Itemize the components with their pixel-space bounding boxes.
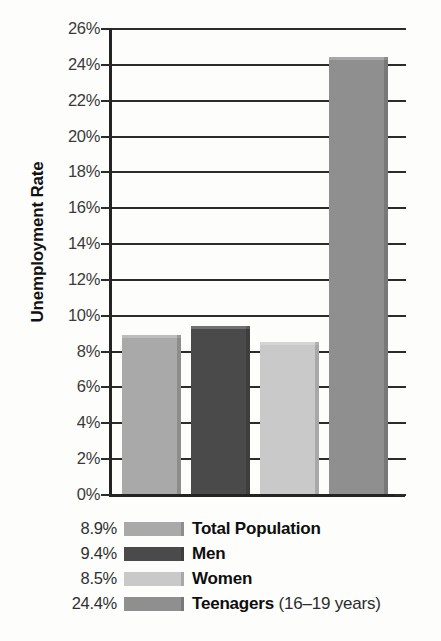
legend-swatch-face <box>124 597 184 611</box>
bar-face <box>191 326 250 494</box>
bar-shadow-edge <box>246 326 250 494</box>
bar-shadow-edge <box>177 335 181 495</box>
legend-swatch-edge <box>181 522 184 536</box>
y-axis-tick <box>101 243 110 245</box>
y-axis-tick <box>101 64 110 66</box>
y-axis-tick-right <box>395 136 406 138</box>
y-axis-tick <box>101 207 110 209</box>
bar-face <box>329 57 388 494</box>
y-axis-tick-right <box>395 494 406 496</box>
legend-label: Men <box>184 544 225 564</box>
legend-swatch-face <box>124 572 184 586</box>
bar-series <box>109 28 401 494</box>
y-axis-tick <box>101 386 110 388</box>
y-axis-tick-right <box>395 100 406 102</box>
y-axis-tick-label: 8% <box>44 341 100 360</box>
y-axis-tick-right <box>395 315 406 317</box>
y-axis-tick-right <box>395 458 406 460</box>
legend-item: 24.4%Teenagers (16–19 years) <box>0 591 441 616</box>
y-axis-tick-label: 22% <box>44 90 100 109</box>
y-axis-tick-label: 18% <box>44 162 100 181</box>
bar <box>260 342 319 494</box>
y-axis-tick-right <box>395 28 406 30</box>
legend-label: Women <box>184 569 252 589</box>
legend-label: Total Population <box>184 519 321 539</box>
y-axis-tick-right <box>395 351 406 353</box>
bar <box>329 57 388 494</box>
legend-value: 9.4% <box>0 544 124 563</box>
bar-shadow-edge <box>315 342 319 494</box>
legend-label: Teenagers (16–19 years) <box>184 594 381 614</box>
legend-value: 8.5% <box>0 569 124 588</box>
legend-value: 8.9% <box>0 519 124 538</box>
legend-swatch-edge <box>181 597 184 611</box>
legend-label-sub: (16–19 years) <box>274 594 381 613</box>
y-axis-tick <box>101 315 110 317</box>
bar-highlight <box>260 342 319 345</box>
y-axis-tick <box>101 494 110 496</box>
bar-face <box>260 342 319 494</box>
y-axis-tick-right <box>395 207 406 209</box>
y-axis-tick <box>101 28 110 30</box>
legend-color-swatch <box>124 547 184 561</box>
bar-shadow-edge <box>384 57 388 494</box>
unemployment-rate-bar-chart: Unemployment Rate 26%24%22%20%18%16%14%1… <box>0 0 441 641</box>
y-axis-tick-label: 10% <box>44 305 100 324</box>
y-axis-tick <box>101 458 110 460</box>
y-axis-tick <box>101 100 110 102</box>
y-axis-tick <box>101 171 110 173</box>
legend-item: 8.5%Women <box>0 566 441 591</box>
y-axis-tick-label: 4% <box>44 413 100 432</box>
bar-highlight <box>329 57 388 60</box>
legend-swatch-face <box>124 522 184 536</box>
y-axis-tick <box>101 136 110 138</box>
legend-color-swatch <box>124 597 184 611</box>
y-axis-tick-label: 12% <box>44 269 100 288</box>
y-axis-tick-right <box>395 64 406 66</box>
chart-legend: 8.9%Total Population9.4%Men8.5%Women24.4… <box>0 516 441 616</box>
y-axis-tick <box>101 279 110 281</box>
legend-item: 9.4%Men <box>0 541 441 566</box>
legend-swatch-edge <box>181 572 184 586</box>
y-axis-tick-label: 16% <box>44 198 100 217</box>
legend-value: 24.4% <box>0 594 124 613</box>
y-axis-tick-right <box>395 386 406 388</box>
y-axis-tick <box>101 422 110 424</box>
y-axis-tick-label: 24% <box>44 54 100 73</box>
y-axis-tick-label: 0% <box>44 485 100 504</box>
bar <box>122 335 181 495</box>
y-axis-tick-right <box>395 279 406 281</box>
y-axis-tick-right <box>395 243 406 245</box>
y-axis-tick-label: 26% <box>44 19 100 38</box>
y-axis-tick-right <box>395 422 406 424</box>
legend-swatch-edge <box>181 547 184 561</box>
y-axis-tick-label: 20% <box>44 126 100 145</box>
bar <box>191 326 250 494</box>
legend-color-swatch <box>124 522 184 536</box>
legend-swatch-face <box>124 547 184 561</box>
y-axis-tick-label: 14% <box>44 234 100 253</box>
y-axis-tick-right <box>395 171 406 173</box>
y-axis-tick <box>101 351 110 353</box>
y-axis-tick-label: 6% <box>44 377 100 396</box>
x-axis-line <box>109 494 405 497</box>
legend-item: 8.9%Total Population <box>0 516 441 541</box>
bar-face <box>122 335 181 495</box>
bar-highlight <box>191 326 250 329</box>
y-axis-tick-label: 2% <box>44 449 100 468</box>
legend-color-swatch <box>124 572 184 586</box>
bar-highlight <box>122 335 181 338</box>
